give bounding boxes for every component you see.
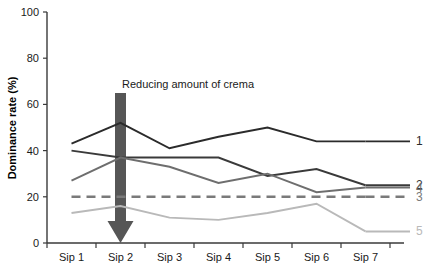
y-axis-tick-label: 0 bbox=[33, 237, 39, 249]
annotation-label: Reducing amount of crema bbox=[122, 78, 255, 90]
legend-label-3: 3 bbox=[416, 190, 423, 204]
x-axis-tick-label: Sip 2 bbox=[108, 251, 133, 263]
y-axis-tick-label: 60 bbox=[27, 98, 39, 110]
x-axis-tick-label: Sip 4 bbox=[206, 251, 231, 263]
x-axis-tick-label: Sip 3 bbox=[157, 251, 182, 263]
legend-label-5: 5 bbox=[416, 224, 423, 238]
x-axis-tick-label: Sip 1 bbox=[59, 251, 84, 263]
legend-label-1: 1 bbox=[416, 134, 423, 148]
y-axis-tick-label: 100 bbox=[21, 6, 39, 18]
x-axis-tick-label: Sip 5 bbox=[255, 251, 280, 263]
y-axis-tick-label: 20 bbox=[27, 191, 39, 203]
dominance-rate-line-chart: 020406080100 Sip 1Sip 2Sip 3Sip 4Sip 5Si… bbox=[0, 0, 430, 278]
chart-root: 020406080100 Sip 1Sip 2Sip 3Sip 4Sip 5Si… bbox=[0, 0, 430, 278]
y-axis-tick-label: 80 bbox=[27, 52, 39, 64]
x-axis-tick-label: Sip 7 bbox=[353, 251, 378, 263]
y-axis-title: Dominance rate (%) bbox=[6, 76, 18, 179]
y-axis-tick-label: 40 bbox=[27, 145, 39, 157]
chart-background bbox=[0, 0, 430, 278]
x-axis-tick-label: Sip 6 bbox=[304, 251, 329, 263]
